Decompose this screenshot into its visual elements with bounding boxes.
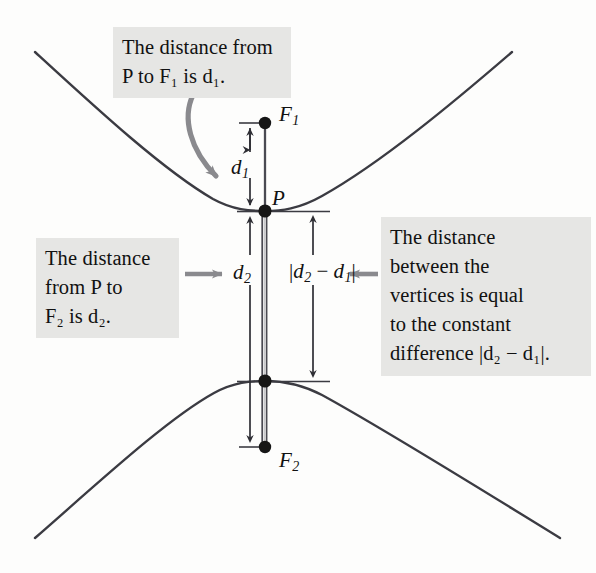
label-distance-d1: d1 — [231, 157, 249, 181]
hyperbola-figure: The distance from P to F₁ is d₁. The dis… — [0, 0, 596, 573]
callout-distance-p-to-f2: The distance from P to F₂ is d₂. — [36, 238, 179, 338]
difference-close-bar: | — [352, 259, 356, 283]
difference-d1-subscript: 1 — [344, 270, 352, 285]
difference-d1-letter: d — [334, 259, 345, 283]
label-point-p: P — [272, 188, 285, 209]
dimension-d2 — [246, 216, 253, 443]
label-distance-d1-subscript: 1 — [242, 166, 250, 181]
axis-segment-p-f2 — [262, 211, 266, 447]
point-P — [258, 204, 271, 217]
difference-minus-sign: − — [311, 259, 333, 283]
label-focus-lower-letter: F — [279, 448, 292, 472]
label-distance-d1-letter: d — [231, 155, 242, 179]
label-focus-lower-subscript: 2 — [292, 459, 300, 474]
label-focus-upper-letter: F — [279, 102, 292, 126]
label-focus-lower: F2 — [279, 450, 299, 474]
point-F1 — [259, 117, 271, 129]
callout-top-pointer-arrow — [188, 95, 216, 176]
label-vertex-difference: |d2 − d1| — [289, 261, 356, 285]
label-focus-upper: F1 — [279, 104, 299, 128]
label-focus-upper-subscript: 1 — [292, 113, 300, 128]
dimension-vertex-gap — [309, 215, 316, 378]
point-lower-vertex — [258, 374, 271, 387]
difference-d2-letter: d — [293, 259, 304, 283]
callout-distance-p-to-f1: The distance from P to F₁ is d₁. — [113, 27, 291, 98]
label-distance-d2: d2 — [233, 262, 251, 286]
label-point-p-letter: P — [272, 186, 285, 210]
label-distance-d2-letter: d — [233, 260, 244, 284]
point-F2 — [259, 441, 271, 453]
label-distance-d2-subscript: 2 — [244, 271, 252, 286]
callout-vertex-distance: The distance between the vertices is equ… — [381, 217, 591, 376]
